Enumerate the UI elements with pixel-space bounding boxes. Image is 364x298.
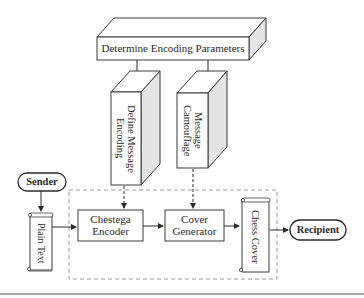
encoder-label: Chestega Encoder [78, 210, 143, 241]
define-encoding-label: Define Message Encoding [111, 92, 141, 185]
sender-label: Sender [18, 173, 66, 191]
recipient-label: Recipient [290, 220, 346, 240]
diagram-canvas: Determine Encoding Parameters Define Mes… [0, 0, 364, 298]
plain-text-label: Plain Text [30, 217, 52, 270]
chess-cover-label: Chess Cover [242, 202, 269, 272]
determine-params-label: Determine Encoding Parameters [97, 37, 249, 60]
generator-label: Cover Generator [165, 210, 224, 241]
message-camouflage-label: Message Camouflage [177, 93, 208, 168]
